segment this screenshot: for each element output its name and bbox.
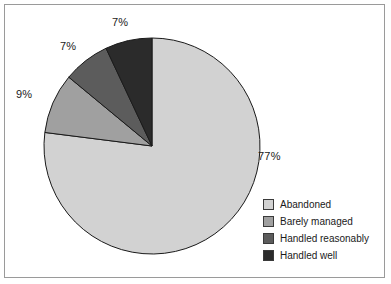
legend-item-label: Barely managed [280,216,353,227]
legend-item-handled-reasonably[interactable]: Handled reasonably [263,231,369,245]
chart-canvas: 7% 7% 9% 77% AbandonedBarely managedHand… [0,0,391,284]
slice-value-label-handled-reasonably: 7% [60,40,76,52]
slice-value-label-barely-managed: 9% [16,88,32,100]
pie-slice-group [44,38,260,254]
legend-item-label: Handled reasonably [280,233,369,244]
legend-swatch-icon [263,216,274,227]
legend-item-handled-well[interactable]: Handled well [263,248,369,262]
legend-item-label: Abandoned [280,199,331,210]
chart-legend: AbandonedBarely managedHandled reasonabl… [263,197,369,262]
legend-item-barely-managed[interactable]: Barely managed [263,214,369,228]
legend-item-abandoned[interactable]: Abandoned [263,197,369,211]
legend-swatch-icon [263,199,274,210]
legend-swatch-icon [263,250,274,261]
slice-value-label-abandoned: 77% [258,150,281,162]
legend-swatch-icon [263,233,274,244]
legend-item-label: Handled well [280,250,337,261]
slice-value-label-handled-well: 7% [112,16,128,28]
